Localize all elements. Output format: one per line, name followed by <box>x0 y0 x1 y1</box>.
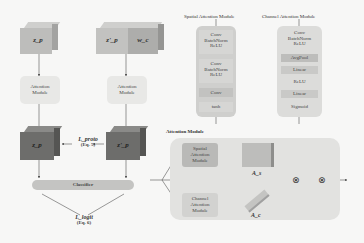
spatial-module-title: Spatial Attention Module <box>184 14 235 19</box>
zp-prime-output-label: z'_p <box>108 141 138 149</box>
zp-output-label: z_p <box>22 141 52 149</box>
channel-attention-box: Channel Attention Module <box>182 193 218 217</box>
proto-loss-eq: (Eq. 5) <box>68 142 108 148</box>
spatial-attention-box: Spatial Attention Module <box>182 143 218 167</box>
multiply-icon-2: ⊗ <box>318 175 326 185</box>
channel-module-panel: Conv BatchNorm ReLU AvgPool Linear ReLU … <box>277 26 322 117</box>
spatial-module-panel: Conv BatchNorm ReLU Conv BatchNorm ReLU … <box>196 26 236 117</box>
zp-prime-label: z'_p <box>98 36 126 44</box>
input-cube-zp: z_p <box>20 22 56 52</box>
channel-block-linear-1: Linear <box>281 66 318 74</box>
attention-module-left: Attention Module <box>20 76 60 104</box>
proto-loss: L_proto (Eq. 5) <box>68 136 108 148</box>
As-label: A_s <box>252 170 261 176</box>
wc-label: w_c <box>130 36 156 44</box>
spatial-block-1: Conv BatchNorm ReLU <box>199 30 233 54</box>
spatial-block-tanh: tanh <box>199 102 233 112</box>
multiply-icon-1: ⊗ <box>292 175 300 185</box>
channel-block-avgpool: AvgPool <box>281 54 318 62</box>
channel-module-title: Channel Attention Module <box>262 14 315 19</box>
classifier-bar: Classifier <box>32 180 134 190</box>
zp-label: z_p <box>24 36 52 44</box>
output-cube-zp-prime: z'_p <box>106 126 146 160</box>
attention-module-right: Attention Module <box>107 76 147 104</box>
input-cube-zp-wc: z'_p w_c <box>96 22 164 52</box>
channel-block-sigmoid: Sigmoid <box>281 102 318 112</box>
spatial-block-conv: Conv <box>199 88 233 97</box>
attention-module-title: Attention Module <box>166 129 204 134</box>
spatial-map-As <box>242 143 274 167</box>
channel-block-linear-2: Linear <box>281 90 318 98</box>
logit-loss: L_logit (Eq. 6) <box>68 214 100 226</box>
channel-block-relu: ReLU <box>281 78 318 86</box>
logit-loss-eq: (Eq. 6) <box>68 220 100 226</box>
channel-block-1: Conv BatchNorm ReLU <box>281 30 318 50</box>
output-cube-zp: z_p <box>20 126 60 160</box>
Ac-label: A_c <box>251 212 261 218</box>
spatial-block-2: Conv BatchNorm ReLU <box>199 59 233 83</box>
